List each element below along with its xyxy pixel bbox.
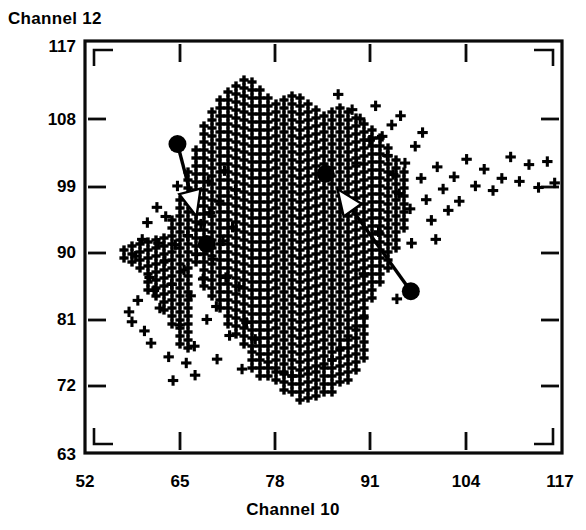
- plus-marker: [367, 253, 376, 262]
- plus-marker: [461, 154, 471, 164]
- plus-marker: [279, 183, 288, 192]
- plus-marker: [343, 323, 352, 332]
- plus-marker: [287, 211, 296, 220]
- plus-marker: [303, 377, 312, 386]
- plus-marker: [223, 295, 232, 304]
- plus-marker: [367, 261, 376, 270]
- plus-marker: [199, 273, 208, 282]
- plus-marker: [279, 295, 288, 304]
- plus-marker: [271, 267, 280, 276]
- plus-marker: [303, 187, 312, 196]
- plus-marker: [247, 205, 256, 214]
- plus-marker: [223, 135, 232, 144]
- plus-marker: [295, 341, 304, 350]
- plus-marker: [319, 287, 328, 296]
- plus-marker: [263, 277, 272, 286]
- plus-marker: [367, 277, 376, 286]
- plus-marker: [255, 301, 264, 310]
- plus-marker: [319, 311, 328, 320]
- plus-marker: [215, 215, 224, 224]
- plus-marker: [287, 371, 296, 380]
- plus-marker: [223, 255, 232, 264]
- plus-marker: [215, 191, 224, 200]
- plus-marker: [351, 289, 360, 298]
- plus-marker: [287, 243, 296, 252]
- plus-marker: [319, 303, 328, 312]
- plus-marker: [279, 199, 288, 208]
- plus-marker: [271, 211, 280, 220]
- plus-marker: [327, 187, 336, 196]
- plus-marker: [199, 137, 208, 146]
- plus-marker: [239, 275, 248, 284]
- plus-marker: [215, 119, 224, 128]
- plus-marker: [207, 283, 216, 292]
- plus-marker: [351, 145, 360, 154]
- plus-marker: [295, 205, 304, 214]
- plus-marker: [263, 181, 272, 190]
- plus-marker: [343, 243, 352, 252]
- plus-marker: [239, 235, 248, 244]
- x-tick-labels: 52 65 78 91 104 117: [76, 472, 574, 491]
- plus-marker: [279, 151, 288, 160]
- y-axis-title: Channel 12: [8, 9, 102, 28]
- plus-marker: [239, 131, 248, 140]
- plus-marker: [239, 147, 248, 156]
- plus-marker: [263, 261, 272, 270]
- plus-marker: [438, 184, 448, 194]
- top-axis-ticks: [180, 44, 466, 62]
- plus-marker: [263, 93, 272, 102]
- plus-marker: [351, 153, 360, 162]
- plus-marker: [295, 133, 304, 142]
- plus-marker: [207, 275, 216, 284]
- plus-marker: [375, 165, 384, 174]
- plus-marker: [255, 181, 264, 190]
- plus-marker: [263, 133, 272, 142]
- plus-marker: [263, 109, 272, 118]
- plus-marker: [391, 243, 400, 252]
- plus-marker: [239, 331, 248, 340]
- plus-marker: [327, 219, 336, 228]
- plus-marker: [311, 209, 320, 218]
- plus-marker: [327, 139, 336, 148]
- plus-marker: [207, 123, 216, 132]
- plus-marker: [271, 99, 280, 108]
- plus-marker: [223, 263, 232, 272]
- plus-marker: [295, 157, 304, 166]
- plus-marker: [287, 355, 296, 364]
- plus-marker: [231, 329, 240, 338]
- plus-marker: [359, 127, 368, 136]
- plus-marker: [263, 293, 272, 302]
- plus-marker: [343, 359, 352, 368]
- plus-marker: [295, 245, 304, 254]
- plus-marker: [303, 323, 312, 332]
- plus-marker: [319, 351, 328, 360]
- plus-marker: [319, 135, 328, 144]
- plus-marker: [143, 253, 152, 262]
- plus-marker: [295, 293, 304, 302]
- plus-marker: [335, 287, 344, 296]
- plus-marker: [319, 335, 328, 344]
- plus-marker: [343, 307, 352, 316]
- plus-marker: [231, 113, 240, 122]
- plus-marker: [239, 307, 248, 316]
- plus-marker: [359, 159, 368, 168]
- plus-marker: [255, 133, 264, 142]
- plus-marker: [231, 177, 240, 186]
- plus-marker: [255, 261, 264, 270]
- plus-marker: [143, 261, 152, 270]
- plus-marker: [383, 223, 392, 232]
- plus-marker: [505, 152, 515, 162]
- plus-marker: [351, 349, 360, 358]
- plus-marker: [287, 163, 296, 172]
- plus-marker: [335, 119, 344, 128]
- plus-marker: [159, 233, 168, 242]
- plus-marker: [207, 131, 216, 140]
- plus-marker: [311, 121, 320, 130]
- scatter-plot-figure: Channel 12 117 108 99 90 81 72 63 52 65 …: [0, 0, 586, 530]
- plus-marker: [279, 359, 288, 368]
- plus-marker: [207, 219, 216, 228]
- plus-marker: [223, 95, 232, 104]
- plus-marker: [255, 189, 264, 198]
- plus-marker: [431, 234, 441, 244]
- plus-marker: [311, 233, 320, 242]
